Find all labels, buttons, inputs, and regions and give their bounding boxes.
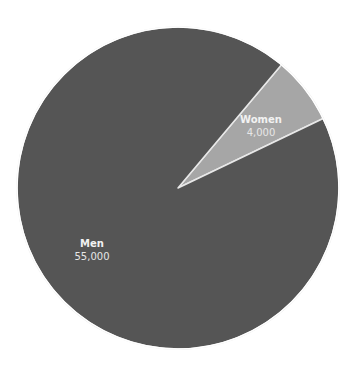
slice-label-women: Women 4,000 [240, 113, 282, 139]
slice-value-women: 4,000 [240, 126, 282, 139]
slice-name-women: Women [240, 113, 282, 126]
pie-slices [17, 27, 339, 349]
slice-label-men: Men 55,000 [75, 237, 110, 263]
pie-chart [0, 0, 356, 377]
slice-name-men: Men [75, 237, 110, 250]
slice-value-men: 55,000 [75, 250, 110, 263]
